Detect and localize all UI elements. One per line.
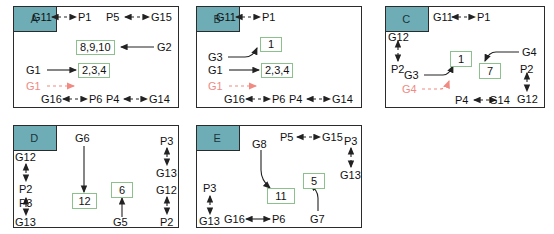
panel-a-node-g14: G14	[149, 93, 170, 105]
panel-a-box-8-9-10: 8,9,10	[76, 40, 115, 55]
panel-d-node-p3-left: P3	[19, 197, 32, 209]
panel-d: D G6 P3 G13 G12 P2 G12 P2 P3 G13 G5 12 6	[13, 125, 179, 228]
panel-a-node-g15: G15	[151, 11, 172, 23]
panel-a: A P1 dashed --> G15 dashed --> P6 dashed…	[13, 6, 179, 108]
panel-b-node-g3: G3	[208, 51, 223, 63]
panel-e-node-g7: G7	[310, 213, 325, 225]
panel-d-node-g13-right: G13	[156, 167, 177, 179]
panel-e-node-g8: G8	[252, 138, 267, 150]
panel-d-node-g13-left: G13	[15, 216, 36, 228]
panel-e-node-p3-left: P3	[203, 182, 216, 194]
panel-a-node-g11: G11	[32, 11, 52, 23]
panel-b-node-g1-red: G1	[208, 80, 223, 92]
panel-b-box-1: 1	[260, 37, 282, 52]
panel-c-node-p4: P4	[455, 94, 468, 106]
panel-c-label: C	[385, 6, 429, 32]
panel-b-node-p1: P1	[262, 11, 275, 23]
panel-b-node-g14: G14	[332, 93, 353, 105]
panel-a-box-2-3-4: 2,3,4	[78, 63, 110, 78]
panel-a-node-g1-solid: G1	[26, 64, 41, 76]
panel-c: C P1 --> P2 vertical left --> G12 vertic…	[385, 6, 545, 108]
panel-d-label: D	[13, 125, 57, 151]
panel-b-box-2-3-4: 2,3,4	[261, 63, 293, 78]
panel-e-box-5: 5	[303, 173, 325, 189]
panel-a-node-p5: P5	[106, 11, 119, 23]
panel-a-node-g16: G16	[41, 93, 62, 105]
panel-c-node-p2-right: P2	[520, 63, 533, 75]
panel-a-node-p4: P4	[106, 93, 119, 105]
panel-c-node-p2-left: P2	[391, 63, 404, 75]
panel-b-node-p4: P4	[289, 93, 302, 105]
panel-e: E G8 P5 G15 P3 G13 P3 G13 G16 P6 G7 11 5	[196, 125, 362, 228]
panel-e-node-g15: G15	[322, 131, 343, 143]
panel-a-node-g2: G2	[157, 41, 172, 53]
panel-d-node-p2-right: P2	[160, 216, 173, 228]
panel-e-box-11: 11	[267, 188, 295, 204]
panel-e-node-g13-left: G13	[199, 215, 220, 227]
panel-e-label: E	[196, 125, 240, 151]
panel-d-node-g12-right: G12	[156, 184, 177, 196]
panel-b: B G11 P1 G3 G1 G1 G16 P6 P4 G14 1 2,3,4	[196, 6, 362, 108]
panel-c-node-g14: G14	[489, 94, 510, 106]
panel-c-node-g12-left: G12	[388, 31, 409, 43]
panel-a-node-p6: P6	[89, 93, 102, 105]
panel-e-node-p5: P5	[280, 131, 293, 143]
panel-b-node-g16: G16	[224, 93, 245, 105]
panel-a-node-p1: P1	[78, 11, 91, 23]
panel-c-node-g3: G3	[404, 69, 419, 81]
panel-e-node-g16: G16	[224, 213, 245, 225]
panel-c-node-g4: G4	[522, 46, 537, 58]
panel-e-node-p6: P6	[272, 213, 285, 225]
panel-c-node-g12-right: G12	[517, 93, 538, 105]
panel-c-node-g4-red: G4	[402, 83, 417, 95]
panel-d-node-g12-left: G12	[15, 151, 36, 163]
panel-d-box-6: 6	[111, 182, 133, 198]
panel-d-node-p2-left: P2	[19, 183, 32, 195]
panel-b-node-p6: P6	[272, 93, 285, 105]
panel-d-node-p3-right: P3	[160, 135, 173, 147]
panel-c-node-p1: P1	[477, 11, 490, 23]
panel-c-box-7: 7	[479, 63, 501, 79]
panel-d-box-12: 12	[72, 193, 97, 209]
panel-c-box-1: 1	[450, 51, 472, 67]
panel-d-node-g5: G5	[113, 216, 128, 228]
panel-c-node-g11: G11	[433, 11, 453, 23]
panel-b-node-g11: G11	[216, 11, 236, 23]
panel-d-node-g6: G6	[75, 132, 90, 144]
panel-e-node-p3-right: P3	[344, 135, 357, 147]
panel-b-node-g1-solid: G1	[208, 64, 223, 76]
panel-a-node-g1-red: G1	[26, 80, 41, 92]
panel-e-node-g13-right: G13	[340, 169, 361, 181]
